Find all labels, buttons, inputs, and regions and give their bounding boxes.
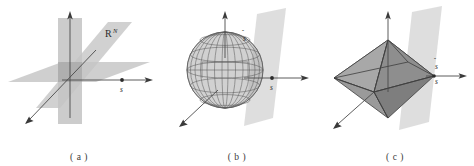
panel-a: s R N ( a ) [0, 0, 158, 166]
panel-c: ̂ s s ( c ) [316, 0, 474, 166]
panel-b: s ̂ s ( b ) [158, 0, 316, 166]
axis-diagonal [338, 92, 374, 124]
panel-c-diagram: ̂ s s [316, 0, 474, 138]
axis-diagonal-arrowhead [333, 122, 342, 130]
unit-vector-hat-accent: ̂ [241, 30, 245, 31]
panel-b-diagram: s ̂ s [158, 0, 316, 138]
point-s-label: s [270, 83, 273, 92]
axis-diagonal-arrowhead [25, 116, 34, 124]
unit-vector-label: s [435, 62, 438, 71]
space-label-rn: R [105, 28, 112, 39]
unit-vector-label: s [243, 34, 246, 43]
point-s-marker [120, 78, 124, 82]
panel-b-caption: ( b ) [158, 152, 316, 162]
point-s-marker [270, 76, 274, 80]
axis-diagonal-arrowhead [179, 120, 188, 127]
point-s-label: s [120, 85, 123, 94]
panel-c-caption: ( c ) [316, 152, 474, 162]
figure-row: s R N ( a ) [0, 0, 474, 166]
point-s-label: s [435, 77, 438, 86]
space-label-superscript: N [112, 27, 118, 34]
panel-a-caption: ( a ) [0, 152, 158, 162]
panel-a-diagram: s R N [0, 0, 158, 138]
